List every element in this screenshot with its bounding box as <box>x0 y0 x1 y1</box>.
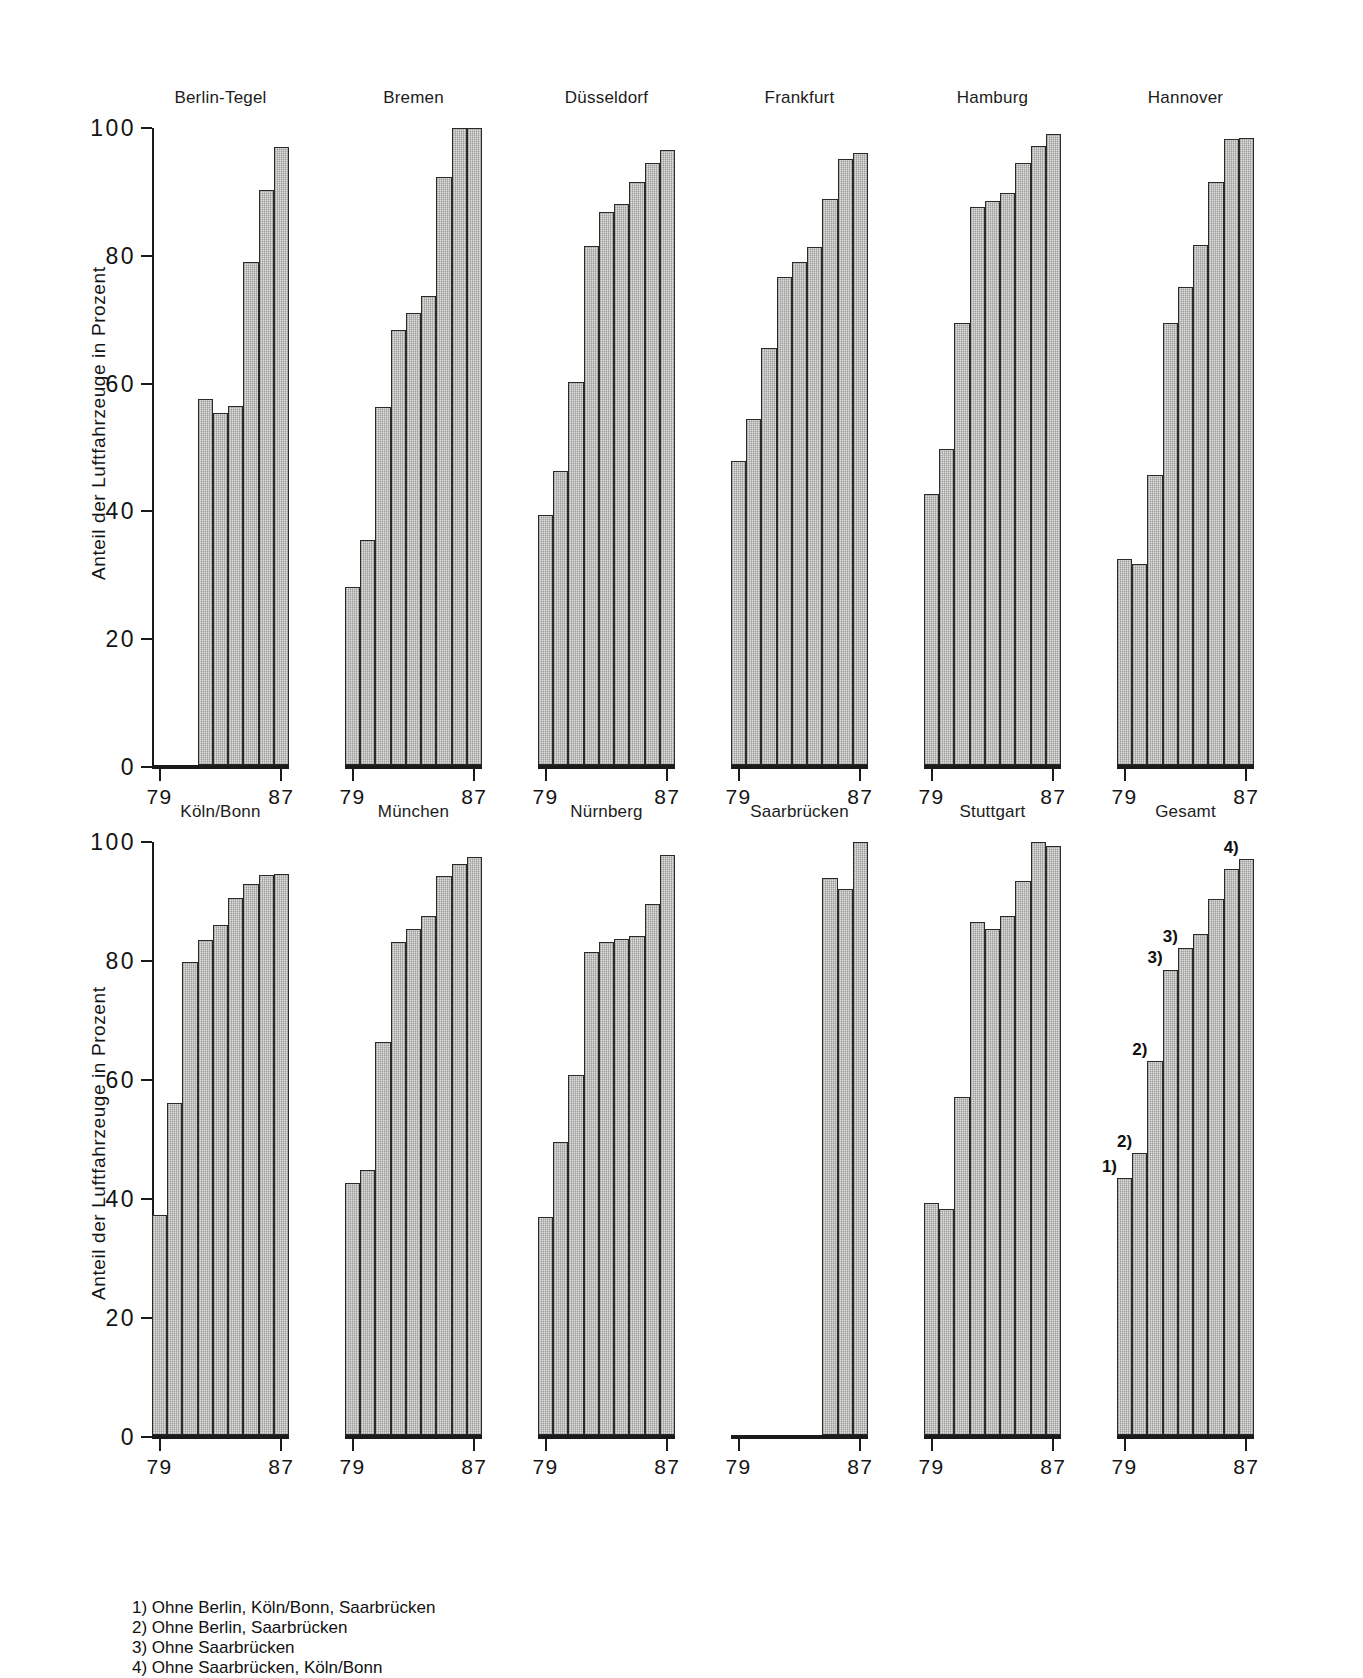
y-axis-tick-label: 0 <box>121 754 136 781</box>
bar <box>360 1170 375 1435</box>
x-axis-tick <box>280 767 282 781</box>
footnote-marker: 4) <box>1224 838 1240 858</box>
bar <box>1132 564 1147 765</box>
bar <box>1132 1153 1147 1435</box>
bar <box>167 1103 182 1435</box>
bar <box>924 494 939 765</box>
bar <box>1000 916 1015 1435</box>
x-axis-tick-label: 87 <box>1233 785 1259 809</box>
y-axis-tick <box>141 255 152 257</box>
bar <box>645 163 660 765</box>
bar <box>954 323 969 765</box>
x-axis-tick <box>931 1437 933 1451</box>
bar <box>1117 1178 1132 1435</box>
chart-panel: Nürnberg7987 <box>538 842 675 1437</box>
x-axis-spine <box>924 1437 1061 1439</box>
y-axis-tick-label: 60 <box>105 370 136 397</box>
panel-title: München <box>378 802 449 822</box>
x-axis-tick-label: 87 <box>1040 785 1066 809</box>
bar <box>1000 193 1015 765</box>
bar <box>436 177 451 765</box>
x-axis-tick-label: 87 <box>654 1455 680 1479</box>
x-axis-tick-label: 79 <box>918 785 944 809</box>
y-axis-tick <box>141 1079 152 1081</box>
x-axis-tick-label: 87 <box>1040 1455 1066 1479</box>
chart-panel: Frankfurt7987 <box>731 128 868 767</box>
y-axis-tick <box>141 638 152 640</box>
bar <box>198 399 213 765</box>
bar <box>274 147 289 765</box>
panel-title: Frankfurt <box>765 88 835 108</box>
bar <box>614 939 629 1435</box>
bar <box>375 407 390 765</box>
x-axis-tick <box>1245 1437 1247 1451</box>
bar <box>1193 934 1208 1435</box>
x-axis-tick-label: 79 <box>532 1455 558 1479</box>
x-axis-tick-label: 79 <box>918 1455 944 1479</box>
chart-panel: Saarbrücken7987 <box>731 842 868 1437</box>
panel-title: Gesamt <box>1155 802 1216 822</box>
bar <box>198 940 213 1435</box>
x-axis-tick-label: 79 <box>725 785 751 809</box>
x-axis-tick <box>666 1437 668 1451</box>
chart-panel: Hannover7987 <box>1117 128 1254 767</box>
bar <box>1193 245 1208 765</box>
bar <box>822 199 837 765</box>
footnote-marker: 1) <box>1102 1157 1118 1177</box>
x-axis-tick <box>738 1437 740 1451</box>
x-axis-spine <box>538 1437 675 1439</box>
bar <box>538 1217 553 1435</box>
bar <box>939 1209 954 1435</box>
chart-panel: Stuttgart7987 <box>924 842 1061 1437</box>
bar <box>259 190 274 765</box>
bar <box>538 515 553 765</box>
x-axis-tick <box>1052 1437 1054 1451</box>
bar <box>660 150 675 765</box>
bar <box>1208 182 1223 765</box>
bar <box>1239 138 1254 765</box>
bar <box>939 449 954 765</box>
bar <box>1178 287 1193 765</box>
bar <box>853 842 868 1435</box>
bar <box>1031 146 1046 765</box>
x-axis-tick <box>473 767 475 781</box>
y-axis-tick-label: 0 <box>121 1424 136 1451</box>
bar <box>452 864 467 1435</box>
bar <box>1015 881 1030 1435</box>
bar <box>1239 859 1254 1435</box>
y-axis-tick <box>141 960 152 962</box>
x-axis-tick-label: 87 <box>654 785 680 809</box>
x-axis-tick-label: 87 <box>1233 1455 1259 1479</box>
footnote-marker: 3) <box>1148 948 1164 968</box>
y-axis-tick <box>141 383 152 385</box>
x-axis-tick-label: 79 <box>339 785 365 809</box>
bar <box>924 1203 939 1435</box>
panel-plot-area <box>152 842 289 1437</box>
x-axis-tick-label: 79 <box>146 785 172 809</box>
bar <box>1117 559 1132 765</box>
panel-title: Hamburg <box>957 88 1028 108</box>
bar <box>228 406 243 765</box>
chart-panel: Hamburg7987 <box>924 128 1061 767</box>
x-axis-tick-label: 79 <box>1111 785 1137 809</box>
x-axis-tick <box>352 767 354 781</box>
bar <box>838 889 853 1435</box>
x-axis-tick-label: 87 <box>847 785 873 809</box>
x-axis-tick <box>738 767 740 781</box>
bar <box>421 916 436 1435</box>
bar <box>970 922 985 1435</box>
bar <box>452 128 467 765</box>
bar <box>467 128 482 765</box>
y-axis-tick-label: 40 <box>105 498 136 525</box>
x-axis-tick <box>545 1437 547 1451</box>
bar <box>599 942 614 1435</box>
footnote-line: 4) Ohne Saarbrücken, Köln/Bonn <box>132 1658 435 1678</box>
bar <box>553 471 568 765</box>
bar <box>568 1075 583 1435</box>
chart-panel: München7987 <box>345 842 482 1437</box>
y-axis-tick-label: 100 <box>90 115 136 142</box>
bar <box>421 296 436 765</box>
bar <box>391 942 406 1435</box>
x-axis-spine <box>924 767 1061 769</box>
bar <box>822 878 837 1435</box>
